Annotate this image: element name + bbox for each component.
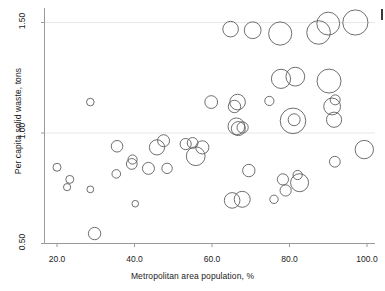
data-point: [162, 163, 172, 173]
data-point: [112, 170, 121, 179]
data-point: [205, 96, 218, 109]
data-point: [271, 69, 290, 88]
data-point: [223, 21, 239, 37]
page-edge-artifact: [381, 9, 383, 20]
bubble-chart-figure: Metropolitan area population, % Per capi…: [0, 0, 385, 291]
x-tick-label: 100.0: [356, 254, 377, 264]
data-point: [132, 200, 139, 207]
data-point: [180, 138, 191, 149]
data-point: [317, 69, 341, 93]
data-point: [149, 140, 164, 155]
x-tick-label: 80.0: [281, 254, 298, 264]
x-tick-label: 60.0: [204, 254, 221, 264]
y-tick-label: 0.50: [8, 237, 36, 247]
data-point: [330, 95, 340, 105]
data-point: [88, 227, 100, 239]
data-point: [286, 67, 305, 86]
tick-marks: [41, 23, 367, 248]
data-point-layer: [53, 10, 373, 240]
data-point: [280, 185, 291, 196]
data-point: [317, 12, 340, 35]
data-point: [269, 22, 292, 45]
data-point: [87, 98, 95, 106]
data-point: [329, 156, 340, 167]
data-point: [277, 174, 288, 185]
data-point: [111, 140, 123, 152]
x-tick-label: 40.0: [126, 254, 143, 264]
data-point: [355, 140, 373, 158]
data-point: [53, 163, 61, 171]
x-tick-label: 20.0: [49, 254, 66, 264]
y-tick-label: 1.50: [8, 16, 36, 26]
data-point: [270, 195, 278, 203]
gridlines: [45, 23, 376, 244]
data-point: [243, 164, 255, 176]
x-axis-title: Metropolitan area population, %: [0, 271, 385, 281]
data-point: [230, 94, 246, 110]
data-point: [307, 21, 331, 45]
data-point: [158, 135, 170, 147]
plot-canvas: [0, 0, 385, 291]
data-point: [234, 191, 250, 207]
y-tick-label: 1.00: [8, 126, 36, 136]
data-point: [244, 22, 261, 39]
data-point: [66, 175, 74, 183]
data-point: [291, 174, 309, 192]
data-point: [228, 118, 245, 135]
data-point: [142, 162, 154, 174]
axis-lines: [45, 8, 376, 244]
data-point: [280, 108, 306, 134]
data-point: [265, 96, 274, 105]
data-point: [87, 186, 94, 193]
data-point: [288, 114, 300, 126]
data-point: [63, 184, 70, 191]
